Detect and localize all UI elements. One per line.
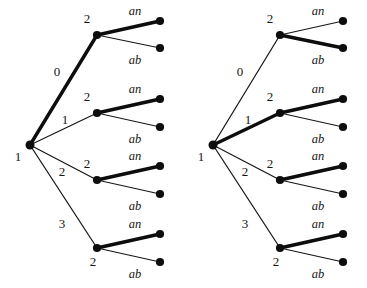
leaf-dot-2-1 — [156, 190, 164, 198]
leaf-dot-3-1 — [156, 258, 164, 266]
internal-node-dot-2 — [276, 176, 284, 184]
right-tree: anab20anab21anab22anab231 — [198, 4, 347, 281]
leaf-dot-0-1 — [339, 44, 347, 52]
leaf-dot-2-1 — [339, 190, 347, 198]
leaf-label-3-0: an — [312, 217, 325, 231]
root-edge-label-3: 3 — [242, 216, 249, 231]
leaf-label-0-1: ab — [312, 53, 325, 67]
leaf-label-3-0: an — [129, 217, 142, 231]
leaf-label-2-0: an — [129, 149, 142, 163]
edge-node-1-to-leaf-0[interactable] — [280, 99, 343, 113]
root-edge-label-2: 2 — [59, 164, 66, 179]
leaf-label-1-0: an — [129, 82, 142, 96]
leaf-dot-3-1 — [339, 258, 347, 266]
leaf-dot-0-0 — [339, 17, 347, 25]
edge-node-3-to-leaf-0[interactable] — [280, 234, 343, 248]
leaf-label-3-1: ab — [129, 267, 142, 281]
root-edge-label-3: 3 — [59, 216, 66, 231]
leaf-label-0-1: ab — [129, 53, 142, 67]
leaf-label-2-0: an — [312, 149, 325, 163]
leaf-dot-3-0 — [156, 230, 164, 238]
edge-node-0-to-leaf-1[interactable] — [97, 35, 160, 48]
internal-node-label-0: 2 — [267, 11, 274, 26]
leaf-label-1-1: ab — [129, 132, 142, 146]
root-node-label: 1 — [198, 149, 205, 164]
internal-node-label-3: 2 — [90, 254, 97, 269]
edge-node-3-to-leaf-0[interactable] — [97, 234, 160, 248]
root-edge-label-0: 0 — [54, 64, 61, 79]
edge-node-1-to-leaf-1[interactable] — [97, 113, 160, 127]
internal-node-dot-0 — [276, 31, 284, 39]
internal-node-dot-0 — [93, 31, 101, 39]
diagram-canvas: anab20anab21anab22anab231anab20anab21ana… — [0, 0, 367, 288]
internal-node-label-1: 2 — [84, 89, 91, 104]
edge-node-2-to-leaf-1[interactable] — [280, 180, 343, 194]
edge-node-1-to-leaf-1[interactable] — [280, 113, 343, 127]
edge-node-0-to-leaf-0[interactable] — [280, 21, 343, 35]
internal-node-dot-1 — [276, 109, 284, 117]
root-edge-label-0: 0 — [237, 64, 244, 79]
leaf-label-1-0: an — [312, 82, 325, 96]
edge-node-2-to-leaf-0[interactable] — [280, 166, 343, 180]
edge-node-0-to-leaf-0[interactable] — [97, 21, 160, 35]
leaf-dot-0-0 — [156, 17, 164, 25]
leaf-dot-2-0 — [339, 162, 347, 170]
tree-diagram-figure: anab20anab21anab22anab231anab20anab21ana… — [0, 0, 367, 288]
leaf-label-2-1: ab — [312, 199, 325, 213]
root-edge-label-1: 1 — [245, 112, 252, 127]
leaf-label-3-1: ab — [312, 267, 325, 281]
root-node-label: 1 — [15, 149, 22, 164]
leaf-dot-3-0 — [339, 230, 347, 238]
leaf-dot-1-1 — [339, 123, 347, 131]
edge-node-3-to-leaf-1[interactable] — [280, 248, 343, 262]
leaf-label-0-0: an — [312, 4, 325, 18]
root-node-dot — [209, 141, 218, 150]
left-tree: anab20anab21anab22anab231 — [15, 4, 164, 281]
internal-node-dot-3 — [93, 244, 101, 252]
root-edge-label-2: 2 — [242, 164, 249, 179]
internal-node-label-3: 2 — [273, 254, 280, 269]
edge-node-3-to-leaf-1[interactable] — [97, 248, 160, 262]
leaf-label-1-1: ab — [312, 132, 325, 146]
leaf-label-0-0: an — [129, 4, 142, 18]
leaf-dot-1-0 — [339, 95, 347, 103]
leaf-dot-2-0 — [156, 162, 164, 170]
edge-node-1-to-leaf-0[interactable] — [97, 99, 160, 113]
edge-node-2-to-leaf-1[interactable] — [97, 180, 160, 194]
internal-node-label-2: 2 — [267, 156, 274, 171]
root-node-dot — [26, 141, 35, 150]
internal-node-label-2: 2 — [84, 156, 91, 171]
internal-node-dot-1 — [93, 109, 101, 117]
leaf-label-2-1: ab — [129, 199, 142, 213]
internal-node-label-1: 2 — [267, 89, 274, 104]
root-edge-label-1: 1 — [62, 112, 69, 127]
edge-node-2-to-leaf-0[interactable] — [97, 166, 160, 180]
leaf-dot-1-1 — [156, 123, 164, 131]
internal-node-dot-3 — [276, 244, 284, 252]
internal-node-label-0: 2 — [84, 11, 91, 26]
leaf-dot-0-1 — [156, 44, 164, 52]
edge-node-0-to-leaf-1[interactable] — [280, 35, 343, 48]
leaf-dot-1-0 — [156, 95, 164, 103]
internal-node-dot-2 — [93, 176, 101, 184]
